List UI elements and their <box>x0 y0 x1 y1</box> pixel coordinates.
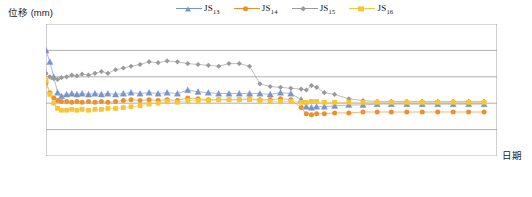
legend-line-js14 <box>234 8 260 9</box>
data-point <box>128 64 133 69</box>
data-point <box>185 87 191 93</box>
data-point <box>74 73 79 78</box>
data-point <box>322 100 327 105</box>
data-point <box>227 97 232 102</box>
data-point <box>195 62 200 67</box>
data-point <box>389 110 394 115</box>
data-point <box>404 110 409 115</box>
data-point <box>346 110 351 115</box>
data-point <box>92 100 97 105</box>
legend-item-js16[interactable]: JS16 <box>349 3 393 15</box>
data-point <box>268 99 273 104</box>
legend-label-js14: JS14 <box>262 3 278 15</box>
data-point <box>64 108 69 113</box>
data-point <box>121 65 126 70</box>
data-point <box>165 99 170 104</box>
data-point <box>51 101 56 106</box>
data-point <box>165 58 170 63</box>
series-line <box>46 61 484 101</box>
data-point <box>175 100 180 105</box>
data-point <box>226 61 231 66</box>
data-point <box>156 101 161 106</box>
legend-item-js13[interactable]: JS13 <box>176 3 220 15</box>
data-point <box>299 105 304 110</box>
data-point <box>420 110 425 115</box>
data-point <box>86 108 91 113</box>
legend-line-js16 <box>349 8 375 9</box>
data-point <box>99 69 104 74</box>
data-point <box>361 100 366 105</box>
data-point <box>75 108 80 113</box>
data-point <box>420 100 425 105</box>
data-point <box>322 111 327 116</box>
data-point <box>482 100 487 105</box>
data-point <box>146 90 152 96</box>
data-point <box>54 90 60 96</box>
data-point <box>69 107 74 112</box>
data-point <box>309 99 314 104</box>
data-point <box>74 99 79 104</box>
data-point <box>105 106 110 111</box>
data-point <box>137 62 142 67</box>
data-point <box>147 97 152 102</box>
data-point <box>304 100 309 105</box>
series-js14 <box>46 80 487 117</box>
legend-item-js14[interactable]: JS14 <box>234 3 278 15</box>
series-js16 <box>46 78 487 113</box>
data-point <box>278 85 283 90</box>
data-point <box>206 98 211 103</box>
data-point <box>466 110 471 115</box>
data-point <box>105 90 111 96</box>
series-line <box>46 83 484 115</box>
data-point <box>216 97 221 102</box>
data-point <box>375 110 380 115</box>
data-point <box>47 92 52 97</box>
data-point <box>175 59 180 64</box>
legend-marker-triangle-icon <box>185 6 191 11</box>
data-point <box>332 110 337 115</box>
data-point <box>404 100 409 105</box>
data-point <box>258 98 263 103</box>
data-point <box>314 85 319 90</box>
data-point <box>59 108 64 113</box>
data-point <box>47 59 53 65</box>
data-point <box>164 90 170 96</box>
data-point <box>375 100 380 105</box>
data-point <box>105 71 110 76</box>
series-line <box>46 50 484 107</box>
data-point <box>80 100 85 105</box>
data-point <box>69 100 74 105</box>
data-point <box>128 90 134 96</box>
data-point <box>322 90 327 95</box>
data-point <box>99 99 104 104</box>
legend-item-js15[interactable]: JS15 <box>292 3 336 15</box>
data-point <box>247 64 252 69</box>
data-point <box>113 99 118 104</box>
legend-line-js13 <box>176 8 202 9</box>
data-point <box>64 74 69 79</box>
data-point <box>206 63 211 68</box>
x-axis-title: 日期 <box>502 148 522 162</box>
data-point <box>59 99 64 104</box>
data-point <box>466 100 471 105</box>
data-point <box>93 107 98 112</box>
data-point <box>46 78 48 83</box>
data-point <box>389 100 394 105</box>
data-point <box>121 105 126 110</box>
plot-area: 1.00.70.40.1-0.2-0.52017/7/32017/10/1120… <box>46 24 497 156</box>
data-point <box>360 110 365 115</box>
data-point <box>435 110 440 115</box>
chart-legend: JS13JS14JS15JS16 <box>176 2 393 16</box>
data-point <box>138 103 143 108</box>
data-point <box>99 107 104 112</box>
legend-marker-diamond-icon <box>300 6 306 12</box>
data-point <box>113 67 118 72</box>
data-point <box>332 92 337 97</box>
data-point <box>185 98 190 103</box>
data-point <box>121 98 126 103</box>
legend-marker-circle-icon <box>243 6 248 11</box>
data-point <box>129 97 134 102</box>
legend-label-js15: JS15 <box>320 3 336 15</box>
data-point <box>69 90 75 96</box>
data-point <box>288 99 293 104</box>
